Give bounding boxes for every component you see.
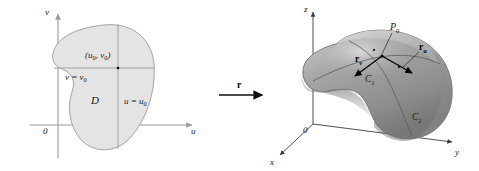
origin-label-xyz: 0: [303, 125, 308, 135]
point-u0-v0-dot: [117, 67, 120, 70]
point-u0-v0-label: (u0, v0): [85, 50, 111, 61]
label-u-equals-u0: u = u0: [124, 96, 147, 107]
region-d-shape: [53, 25, 155, 150]
tick-dot-lower: [398, 66, 400, 68]
left-panel-group: v u 0 D (u0, v0) v = v0 u = u0: [30, 7, 196, 158]
surface-body: [302, 30, 453, 141]
map-arrow-group: r: [219, 80, 262, 95]
u-axis-label: u: [191, 126, 196, 136]
point-p0-label: P0: [389, 21, 399, 34]
figure-container: v u 0 D (u0, v0) v = v0 u = u0 r: [0, 0, 479, 171]
y-axis-label: y: [454, 147, 459, 157]
figure-svg: v u 0 D (u0, v0) v = v0 u = u0 r: [0, 0, 479, 171]
tick-dot-upper: [373, 49, 375, 51]
origin-label-uv: 0: [43, 126, 48, 136]
point-p0-dot: [380, 54, 383, 57]
x-axis-label: x: [269, 157, 274, 167]
region-d-label: D: [90, 94, 99, 106]
v-axis-label: v: [45, 7, 49, 17]
map-arrow-label: r: [237, 80, 242, 90]
label-v-equals-v0: v = v0: [65, 72, 87, 83]
right-panel-group: z y x 0 P0 rv ru C1 C2: [269, 4, 459, 167]
z-axis-label: z: [303, 4, 308, 14]
x-axis-line: [280, 124, 313, 155]
